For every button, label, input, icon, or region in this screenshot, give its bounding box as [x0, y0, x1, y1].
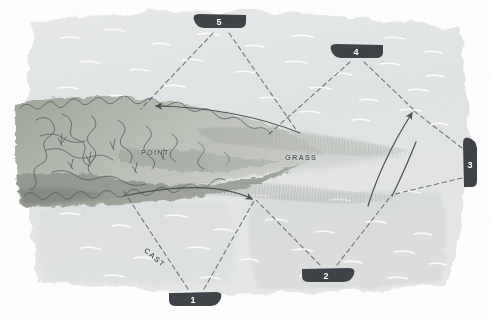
paper-grain — [0, 0, 492, 318]
label-grass: GRASS — [285, 153, 317, 162]
label-point: POINT — [141, 148, 169, 157]
illustration-canvas: 5 4 3 2 1 POINT G — [0, 0, 492, 318]
fishing-diagram-artwork: 5 4 3 2 1 — [0, 0, 492, 318]
